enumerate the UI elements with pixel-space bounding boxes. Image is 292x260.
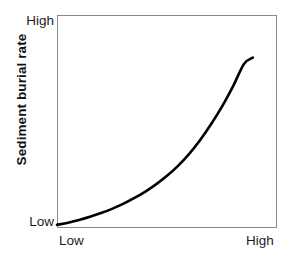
x-axis-tick-low: Low xyxy=(59,234,84,248)
y-axis-tick-low: Low xyxy=(29,215,54,229)
x-axis-tick-high: High xyxy=(246,234,274,248)
plot-area-frame xyxy=(57,15,277,228)
y-axis-title: Sediment burial rate xyxy=(13,0,31,206)
chart-figure: High Low Low High Sediment burial rate xyxy=(0,0,292,260)
